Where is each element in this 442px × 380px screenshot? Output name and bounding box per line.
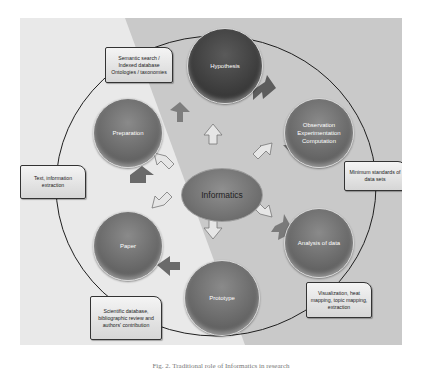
node-label: Paper: [120, 242, 136, 250]
callout-semantic-search: Semantic search / Indexed database Ontol…: [105, 47, 173, 83]
node-preparation: Preparation: [93, 98, 163, 168]
node-label: Analysis of data: [298, 239, 340, 247]
node-label: Prototype: [209, 294, 235, 302]
figure-caption: Fig. 2. Traditional role of Informatics …: [0, 362, 442, 370]
callout-visualization: Visualization, heat mapping, topic mappi…: [306, 282, 372, 318]
node-label: Observation Experimentation Computation: [294, 121, 344, 145]
node-prototype: Prototype: [184, 260, 260, 336]
node-label: Hypothesis: [210, 62, 240, 70]
callout-scientific-database: Scientific database, bibliographic revie…: [90, 296, 162, 340]
center-label: Informatics: [201, 190, 243, 200]
node-analysis: Analysis of data: [284, 208, 354, 278]
node-label: Preparation: [112, 129, 143, 137]
callout-text-extraction: Text, information extraction: [20, 165, 86, 199]
center-informatics: Informatics: [181, 168, 263, 222]
diagram-panel: Hypothesis Observation Experimentation C…: [20, 18, 402, 345]
node-paper: Paper: [93, 211, 163, 281]
callout-minimum-standards: Minimum standards of data sets: [344, 161, 402, 191]
node-observation: Observation Experimentation Computation: [284, 98, 354, 168]
node-hypothesis: Hypothesis: [187, 28, 263, 104]
